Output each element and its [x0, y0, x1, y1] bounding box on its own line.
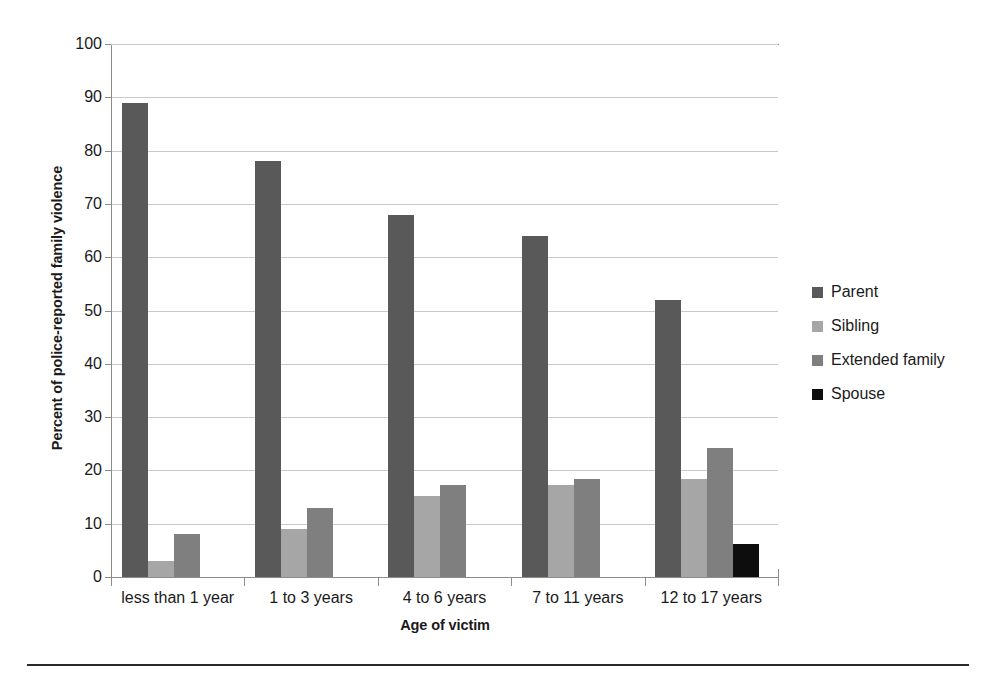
legend-item-extended-family[interactable]: Extended family	[812, 343, 992, 377]
legend-label: Parent	[831, 284, 878, 300]
bar-extended-family	[174, 534, 200, 577]
bar-parent	[122, 103, 148, 577]
x-axis-title: Age of victim	[111, 617, 779, 633]
bar-group	[645, 44, 778, 577]
legend-label: Sibling	[831, 318, 879, 334]
bar-parent	[522, 236, 548, 577]
y-tick-10	[105, 524, 112, 525]
bar-groups	[111, 44, 778, 577]
y-tick-label-50: 50	[54, 303, 102, 319]
legend-label: Extended family	[831, 352, 945, 368]
bar-sibling	[281, 529, 307, 577]
legend-swatch-icon	[812, 389, 823, 400]
legend-swatch-icon	[812, 355, 823, 366]
y-tick-label-80: 80	[54, 143, 102, 159]
bar-parent	[255, 161, 281, 577]
bar-chart-figure: Percent of police-reported family violen…	[0, 0, 996, 679]
y-tick-label-70: 70	[54, 196, 102, 212]
legend-item-spouse[interactable]: Spouse	[812, 377, 992, 411]
x-tick	[778, 577, 779, 586]
x-tick	[378, 577, 379, 586]
y-tick-label-30: 30	[54, 409, 102, 425]
bar-extended-family	[707, 448, 733, 577]
x-tick-label: 4 to 6 years	[378, 589, 511, 607]
x-tick-label: 12 to 17 years	[645, 589, 778, 607]
y-tick-20	[105, 470, 112, 471]
bar-group	[511, 44, 644, 577]
legend-item-sibling[interactable]: Sibling	[812, 309, 992, 343]
bar-extended-family	[574, 479, 600, 577]
bar-parent	[655, 300, 681, 577]
chart-legend: ParentSiblingExtended familySpouse	[812, 275, 992, 411]
bar-parent	[388, 215, 414, 577]
y-tick-70	[105, 204, 112, 205]
bar-spouse	[733, 544, 759, 577]
y-tick-label-20: 20	[54, 462, 102, 478]
y-tick-label-90: 90	[54, 89, 102, 105]
y-axis-tick-labels: 1009080706050403020100	[44, 0, 102, 679]
y-tick-30	[105, 417, 112, 418]
x-tick-label: less than 1 year	[111, 589, 244, 607]
y-tick-label-0: 0	[54, 569, 102, 585]
x-tick-label: 7 to 11 years	[511, 589, 644, 607]
y-tick-label-40: 40	[54, 356, 102, 372]
legend-swatch-icon	[812, 321, 823, 332]
bar-sibling	[548, 485, 574, 577]
bottom-divider	[27, 664, 969, 666]
plot-area	[111, 44, 778, 577]
x-tick	[645, 577, 646, 586]
x-tick	[244, 577, 245, 586]
y-tick-label-100: 100	[54, 36, 102, 52]
y-tick-60	[105, 257, 112, 258]
bar-group	[244, 44, 377, 577]
bar-extended-family	[307, 508, 333, 577]
x-tick	[111, 577, 112, 586]
legend-item-parent[interactable]: Parent	[812, 275, 992, 309]
y-tick-80	[105, 151, 112, 152]
x-tick-label: 1 to 3 years	[244, 589, 377, 607]
legend-swatch-icon	[812, 287, 823, 298]
y-tick-label-10: 10	[54, 516, 102, 532]
bar-group	[111, 44, 244, 577]
bar-sibling	[681, 479, 707, 577]
legend-label: Spouse	[831, 386, 885, 402]
bar-sibling	[414, 496, 440, 577]
bar-group	[378, 44, 511, 577]
x-tick	[511, 577, 512, 586]
y-tick-label-60: 60	[54, 249, 102, 265]
bar-sibling	[148, 561, 174, 577]
y-tick-40	[105, 364, 112, 365]
gridline-0	[111, 577, 778, 578]
y-tick-50	[105, 311, 112, 312]
bar-extended-family	[440, 485, 466, 577]
y-tick-90	[105, 97, 112, 98]
